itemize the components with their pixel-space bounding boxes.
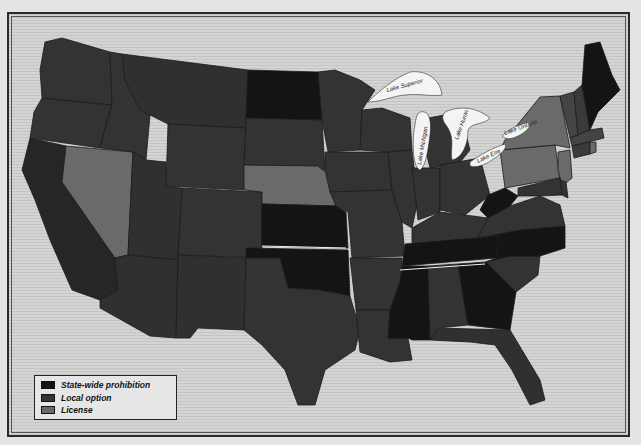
state-indiana[interactable]	[412, 168, 440, 220]
state-wisconsin[interactable]	[360, 108, 412, 152]
state-maine[interactable]	[582, 42, 620, 130]
swatch-state-wide-prohibition	[41, 381, 55, 389]
legend-item-local-option: Local option	[41, 392, 170, 405]
state-iowa[interactable]	[325, 152, 392, 192]
state-wyoming[interactable]	[166, 124, 246, 190]
state-kansas[interactable]	[262, 204, 348, 248]
map-page: Lake Superior Lake Michigan Lake Huron L…	[0, 0, 641, 445]
state-rhode-island[interactable]	[590, 142, 596, 154]
state-florida[interactable]	[430, 328, 545, 405]
legend-label: State-wide prohibition	[61, 380, 150, 390]
swatch-local-option	[41, 394, 55, 402]
swatch-license	[41, 406, 55, 414]
state-new-mexico[interactable]	[176, 255, 246, 338]
legend-item-license: License	[41, 404, 170, 417]
state-north-dakota[interactable]	[246, 70, 322, 120]
state-washington[interactable]	[40, 38, 112, 105]
state-south-dakota[interactable]	[244, 118, 325, 170]
legend-label: Local option	[61, 393, 112, 403]
legend-item-state-wide-prohibition: State-wide prohibition	[41, 379, 170, 392]
state-colorado[interactable]	[178, 188, 262, 258]
legend: State-wide prohibition Local option Lice…	[34, 375, 177, 420]
legend-label: License	[61, 405, 93, 415]
